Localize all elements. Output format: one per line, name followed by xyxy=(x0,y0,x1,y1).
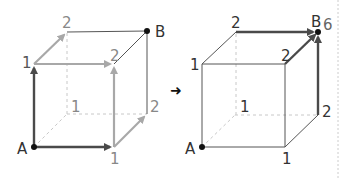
right-count-front-bottom-right: 1 xyxy=(282,150,292,168)
left-count-front-top-right: 2 xyxy=(110,47,120,65)
left-count-back-bottom-left: 1 xyxy=(71,98,81,116)
left-point-b xyxy=(144,28,150,34)
right-count-b: 6 xyxy=(323,16,333,34)
right-count-back-bottom-right: 2 xyxy=(322,103,332,121)
left-label-a: A xyxy=(17,140,28,158)
right-count-back-top-left: 2 xyxy=(231,14,241,32)
left-cube-light-arrows xyxy=(34,35,144,147)
left-count-back-bottom-right: 2 xyxy=(150,98,160,116)
left-label-b: B xyxy=(155,23,165,41)
left-count-back-top-left: 2 xyxy=(62,14,72,32)
right-cube: A B 6 1 1 1 2 2 2 xyxy=(185,13,333,168)
right-point-a xyxy=(199,144,205,150)
left-cube: A B 1 1 1 2 2 2 xyxy=(17,14,165,168)
cube-path-diagram: A B 1 1 1 2 2 2 ➜ A B xyxy=(0,0,350,178)
left-count-front-top-left: 1 xyxy=(22,54,32,72)
left-point-a xyxy=(31,144,37,150)
left-count-front-bottom-right: 1 xyxy=(110,150,120,168)
right-label-b: B xyxy=(311,13,321,31)
right-count-front-top-right: 2 xyxy=(281,47,291,65)
transition-arrow-icon: ➜ xyxy=(170,82,182,98)
right-count-back-bottom-left: 1 xyxy=(240,98,250,116)
right-count-front-top-left: 1 xyxy=(190,56,200,74)
right-label-a: A xyxy=(185,140,196,158)
